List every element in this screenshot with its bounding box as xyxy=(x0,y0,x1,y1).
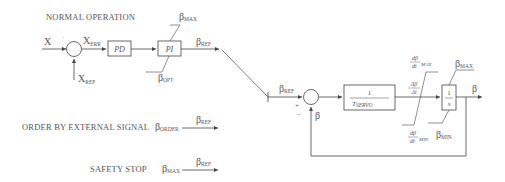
external-signal-title: ORDER BY EXTERNAL SIGNAL xyxy=(22,122,149,132)
dt-min-den: dt xyxy=(410,138,415,144)
servo-numerator: 1 xyxy=(368,89,372,97)
beta-ref-label-main: βREF xyxy=(279,83,294,94)
beta-opt-label: βOPT xyxy=(158,72,174,83)
pi-max-limit-line xyxy=(170,25,180,41)
beta-min-label: βMIN xyxy=(436,129,452,140)
plus-sign: ' xyxy=(63,36,64,41)
x-input-label: X xyxy=(44,36,52,47)
summing-junction-2 xyxy=(304,90,319,105)
beta-max-label-pi: βMAX xyxy=(179,11,197,22)
rate-min-sub: MIN xyxy=(418,137,429,142)
beta-ref-label-normal: βREF xyxy=(196,36,211,47)
integrator-numerator: 1 xyxy=(447,89,451,97)
plus-sign-2: + xyxy=(295,102,299,110)
delta-t-den: Δt xyxy=(410,89,417,95)
integrator-min-limit-line xyxy=(428,110,449,123)
beta-ref-label-safety: βREF xyxy=(196,156,211,167)
x-err-label: XERR xyxy=(83,35,101,47)
dt-max-den: dt xyxy=(412,63,417,69)
x-ref-label: XREF xyxy=(78,73,95,85)
pd-label: PD xyxy=(113,45,125,54)
feedback-loop xyxy=(311,97,466,156)
beta-ref-label-ext: βREF xyxy=(196,114,211,125)
pi-label: PI xyxy=(165,45,174,54)
minus-sign: − xyxy=(297,111,301,119)
selector-switch xyxy=(222,50,268,97)
integrator-max-limit-line xyxy=(449,70,474,85)
integrator-denominator: s xyxy=(448,100,451,108)
beta-output-label: β xyxy=(472,83,477,94)
summing-junction-1 xyxy=(67,42,82,57)
pi-opt-limit-line xyxy=(146,56,169,72)
beta-feedback-label: β xyxy=(315,110,320,121)
control-diagram: NORMAL OPERATION X ' XREF XERR PD PI βMA… xyxy=(0,0,505,182)
servo-denominator: TSERVO xyxy=(352,100,372,108)
rate-limiter-line xyxy=(402,72,438,125)
safety-stop-title: SAFETY STOP xyxy=(90,164,147,174)
beta-max-label-safety: βMAX xyxy=(162,163,180,174)
delta-beta-num: Δβ xyxy=(410,81,418,87)
beta-order-label: βORDER xyxy=(155,121,179,132)
rate-max-sub: MAX xyxy=(420,62,432,67)
beta-max-label-int: βMAX xyxy=(455,58,473,69)
dbeta-min-num: dβ xyxy=(410,130,416,136)
normal-operation-title: NORMAL OPERATION xyxy=(46,12,135,22)
dbeta-max-num: dβ xyxy=(412,55,418,61)
